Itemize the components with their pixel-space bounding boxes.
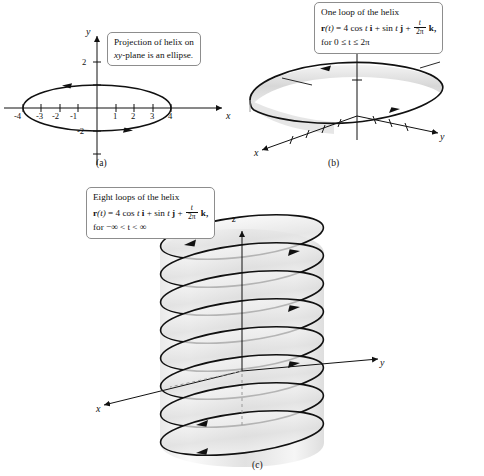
x-axis-label: x — [226, 110, 230, 121]
eq-plus-sin: + sin — [144, 207, 167, 217]
eq-t-arg: (t) — [97, 207, 106, 217]
eq-equals: = 4 cos — [334, 22, 365, 32]
panel-a-callout: Projection of helix on xy-plane is an el… — [107, 32, 201, 66]
panel-b-callout-domain: for 0 ≤ t ≤ 2π — [321, 36, 436, 49]
panel-c-callout-line1: Eight loops of the helix — [93, 191, 208, 204]
panel-c-callout-equation: r(t) = 4 cos t i + sin t j + t2π k, — [93, 204, 208, 221]
fraction-denominator: 2π — [186, 213, 198, 221]
panel-a-caption: (a) — [96, 158, 107, 168]
eq-plus-2: + — [403, 22, 413, 32]
helix-surface-band — [250, 65, 442, 112]
panel-c-callout-domain: for −∞ < t < ∞ — [93, 221, 208, 234]
z-axis-label: z — [232, 213, 236, 224]
panel-c: z y x Eight loops of the helix r(t) = 4 … — [0, 175, 484, 476]
y-axis-line — [357, 116, 438, 133]
panel-c-caption: (c) — [252, 460, 263, 470]
xy-plane-italic: xy — [114, 50, 122, 60]
panel-a-callout-line2: xy-plane is an ellipse. — [114, 49, 194, 62]
eq-fraction-t-over-2pi: t2π — [414, 19, 426, 36]
y-axis-label: y — [86, 26, 90, 37]
eq-t-arg: (t) — [325, 22, 334, 32]
eq-equals: = 4 cos — [106, 207, 137, 217]
x-tick-label--3: -3 — [36, 111, 43, 121]
y-axis-label: y — [380, 357, 384, 368]
curve-leader-line — [420, 62, 440, 68]
x-tick-label-1: 1 — [113, 111, 117, 121]
panel-b-callout-equation: r(t) = 4 cos t i + sin t j + t2π k, — [321, 19, 436, 36]
loop-direction-arrow-2 — [389, 107, 400, 113]
panel-b-callout: One loop of the helix r(t) = 4 cos t i +… — [314, 2, 443, 54]
x-tick-label-3: 3 — [150, 111, 154, 121]
panel-c-plot — [0, 175, 484, 476]
panel-c-callout: Eight loops of the helix r(t) = 4 cos t … — [86, 187, 215, 239]
panel-b: z y x One loop of the helix r(t) = 4 cos… — [242, 0, 484, 175]
eq-plus-2: + — [175, 207, 185, 217]
eq-plus-sin: + sin — [372, 22, 395, 32]
panel-a-plot — [0, 0, 242, 175]
xy-plane-rest: -plane is an ellipse. — [122, 50, 193, 60]
x-tick-label-2: 2 — [131, 111, 135, 121]
panel-b-caption: (b) — [328, 158, 339, 168]
panel-a: -4 -3 -2 -1 1 2 3 4 2 -2 x y Projection … — [0, 0, 242, 175]
x-tick-label--4: -4 — [14, 111, 21, 121]
y-axis-label: y — [440, 131, 444, 142]
eq-k-hat: k, — [427, 22, 437, 32]
eq-fraction-t-over-2pi: t2π — [186, 204, 198, 221]
y-tick-label--2: -2 — [77, 126, 84, 136]
panel-a-callout-line1: Projection of helix on — [114, 36, 194, 49]
fraction-numerator: t — [186, 204, 198, 212]
y-tick-label-2: 2 — [82, 57, 86, 67]
x-axis-label: x — [96, 403, 100, 414]
x-tick-label--1: -1 — [70, 111, 77, 121]
x-tick-label--2: -2 — [52, 111, 59, 121]
x-tick-label-4: 4 — [168, 111, 172, 121]
fraction-numerator: t — [414, 19, 426, 27]
panel-b-callout-line1: One loop of the helix — [321, 6, 436, 19]
eq-k-hat: k, — [199, 207, 209, 217]
x-axis-label: x — [254, 147, 258, 158]
fraction-denominator: 2π — [414, 28, 426, 36]
